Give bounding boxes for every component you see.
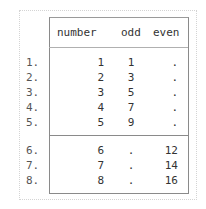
cell-even: 12 xyxy=(148,144,178,157)
cell-even: . xyxy=(148,56,178,69)
row-label: 4. xyxy=(26,101,39,114)
cell-odd: 1 xyxy=(120,56,142,69)
cell-even: . xyxy=(148,71,178,84)
cell-odd: 9 xyxy=(120,116,142,129)
row-label: 8. xyxy=(26,174,39,187)
row-label: 7. xyxy=(26,159,39,172)
cell-odd: . xyxy=(120,144,142,157)
row-label: 3. xyxy=(26,86,39,99)
cell-odd: . xyxy=(120,159,142,172)
cell-odd: 3 xyxy=(120,71,142,84)
cell-number: 2 xyxy=(54,71,104,84)
cell-number: 3 xyxy=(54,86,104,99)
cell-odd: . xyxy=(120,174,142,187)
cell-even: . xyxy=(148,116,178,129)
cell-odd: 7 xyxy=(120,101,142,114)
row-label: 5. xyxy=(26,116,39,129)
header-separator xyxy=(49,47,188,48)
cell-number: 1 xyxy=(54,56,104,69)
cell-odd: 5 xyxy=(120,86,142,99)
column-header-even: even xyxy=(153,26,180,39)
column-header-odd: odd xyxy=(121,26,141,39)
cell-even: 16 xyxy=(148,174,178,187)
cell-number: 8 xyxy=(54,174,104,187)
cell-number: 4 xyxy=(54,101,104,114)
cell-even: . xyxy=(148,101,178,114)
row-label: 1. xyxy=(26,56,39,69)
row-label: 6. xyxy=(26,144,39,157)
cell-number: 5 xyxy=(54,116,104,129)
group-separator xyxy=(49,135,188,136)
cell-even: 14 xyxy=(148,159,178,172)
cell-number: 7 xyxy=(54,159,104,172)
column-header-number: number xyxy=(57,26,97,39)
cell-number: 6 xyxy=(54,144,104,157)
cell-even: . xyxy=(148,86,178,99)
row-label: 2. xyxy=(26,71,39,84)
